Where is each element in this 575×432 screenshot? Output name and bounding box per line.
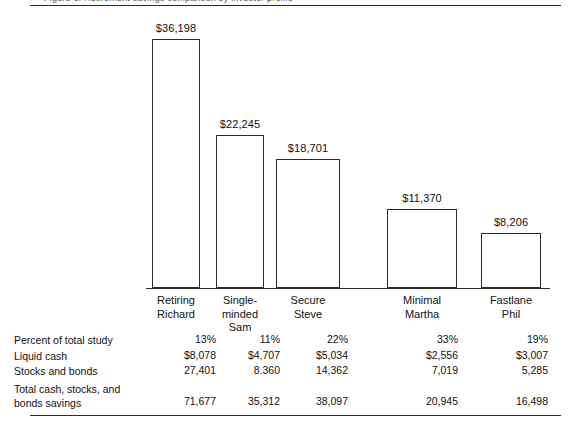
- row-label-total-savings: Total cash, stocks, and bonds savings: [14, 382, 120, 411]
- cell-percent-minimal-martha: 33%: [382, 333, 458, 345]
- figure-page: Figure 3. Retirement savings comparison …: [0, 0, 575, 432]
- cell-liquid-cash-secure-steve: $5,034: [272, 349, 348, 361]
- table-row: Percent of total study 13% 11% 22% 33% 1…: [0, 333, 575, 349]
- bar-secure-steve: [276, 159, 340, 288]
- row-label-stocks-and-bonds: Stocks and bonds: [14, 364, 97, 379]
- bar-single-minded-sam: [216, 135, 264, 288]
- cell-liquid-cash-fastlane-phil: $3,007: [472, 349, 548, 361]
- cell-stocks-bonds-single-minded-sam: 8.360: [204, 364, 280, 376]
- bar-value-single-minded-sam: $22,245: [200, 118, 280, 130]
- bar-fastlane-phil: [481, 233, 541, 288]
- bar-value-retiring-richard: $36,198: [136, 22, 216, 34]
- bottom-horizontal-rule: [30, 415, 561, 416]
- cell-percent-single-minded-sam: 11%: [204, 333, 280, 345]
- cell-liquid-cash-minimal-martha: $2,556: [382, 349, 458, 361]
- table-row: Stocks and bonds 27,401 8.360 14,362 7,0…: [0, 364, 575, 380]
- cell-stocks-bonds-fastlane-phil: 5,285: [472, 364, 548, 376]
- cell-percent-fastlane-phil: 19%: [472, 333, 548, 345]
- cell-percent-secure-steve: 22%: [272, 333, 348, 345]
- cell-stocks-bonds-minimal-martha: 7,019: [382, 364, 458, 376]
- bar-value-minimal-martha: $11,370: [382, 192, 462, 204]
- row-label-liquid-cash: Liquid cash: [14, 349, 67, 364]
- cell-total-single-minded-sam: 35,312: [204, 395, 280, 407]
- x-axis-line: [146, 288, 550, 289]
- bar-retiring-richard: [152, 39, 200, 288]
- bar-value-secure-steve: $18,701: [268, 142, 348, 154]
- data-table: Percent of total study 13% 11% 22% 33% 1…: [0, 333, 575, 410]
- bar-minimal-martha: [387, 209, 457, 288]
- bar-chart: $36,198 $22,245 $18,701 $11,370 $8,206 R…: [0, 0, 575, 300]
- cell-total-secure-steve: 38,097: [272, 395, 348, 407]
- table-row: Liquid cash $8,078 $4,707 $5,034 $2,556 …: [0, 349, 575, 365]
- table-row: Total cash, stocks, and bonds savings 71…: [0, 380, 575, 410]
- bar-value-fastlane-phil: $8,206: [471, 216, 551, 228]
- cell-total-fastlane-phil: 16,498: [472, 395, 548, 407]
- cell-liquid-cash-single-minded-sam: $4,707: [204, 349, 280, 361]
- category-label-secure-steve: Secure Steve: [268, 294, 348, 321]
- category-label-fastlane-phil: Fastlane Phil: [471, 294, 551, 321]
- category-label-minimal-martha: Minimal Martha: [382, 294, 462, 321]
- cell-stocks-bonds-secure-steve: 14,362: [272, 364, 348, 376]
- row-label-percent-of-total-study: Percent of total study: [14, 333, 113, 348]
- cell-total-minimal-martha: 20,945: [382, 395, 458, 407]
